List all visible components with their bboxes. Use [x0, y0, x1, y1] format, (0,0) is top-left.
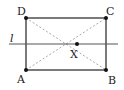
label-C: C [106, 5, 114, 18]
label-B: B [108, 74, 116, 87]
geometry-diagram: D C A B X l [0, 0, 124, 90]
point-X [75, 42, 79, 46]
label-l: l [10, 32, 14, 45]
point-A [24, 68, 28, 72]
label-A: A [16, 73, 26, 86]
label-D: D [17, 5, 26, 18]
point-B [104, 68, 108, 72]
label-X: X [70, 48, 78, 61]
